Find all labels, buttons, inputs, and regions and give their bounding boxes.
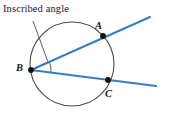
point-label-b: B xyxy=(16,63,23,74)
point-label-c: C xyxy=(105,89,112,100)
point-c-marker xyxy=(105,77,111,83)
inscribed-angle-callout-label: Inscribed angle xyxy=(3,4,69,15)
point-a-marker xyxy=(100,33,106,39)
callout-leader-line xyxy=(33,21,48,62)
ray-bc xyxy=(31,70,156,86)
angle-arc-icon xyxy=(49,62,51,73)
ray-ba xyxy=(31,17,150,70)
inscribed-angle-figure: Inscribed angle A B C xyxy=(0,0,193,119)
point-b-marker xyxy=(28,67,34,73)
geometry-canvas xyxy=(0,0,193,119)
point-label-a: A xyxy=(95,21,102,32)
